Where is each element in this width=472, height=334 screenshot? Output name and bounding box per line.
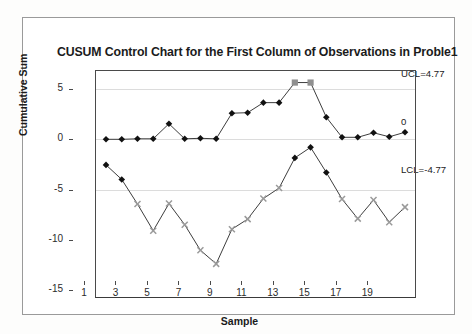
chart-title: CUSUM Control Chart for the First Column… bbox=[57, 45, 467, 59]
data-point-lower-12 bbox=[276, 185, 282, 191]
data-point-upper-14 bbox=[307, 79, 313, 85]
series-layer bbox=[95, 70, 416, 298]
data-point-lower-19 bbox=[386, 219, 392, 225]
y-tick-label: 5 bbox=[57, 82, 63, 93]
data-point-upper-19 bbox=[386, 133, 393, 140]
data-point-lower-8 bbox=[213, 261, 219, 267]
data-point-lower-10 bbox=[245, 216, 251, 222]
y-tick-mark bbox=[69, 89, 73, 90]
y-tick-label: 0 bbox=[57, 132, 63, 143]
screenshot-root: CUSUM Control Chart for the First Column… bbox=[0, 0, 472, 334]
data-point-lower-16 bbox=[339, 196, 345, 202]
series-line-lower bbox=[106, 147, 405, 264]
data-point-upper-1 bbox=[103, 136, 110, 143]
data-point-upper-13 bbox=[292, 79, 298, 85]
data-point-lower-17 bbox=[355, 216, 361, 222]
data-point-lower-7 bbox=[197, 247, 203, 253]
data-point-upper-9 bbox=[229, 110, 236, 117]
data-point-upper-8 bbox=[213, 136, 220, 143]
x-axis-label: Sample bbox=[23, 315, 456, 327]
y-tick-mark bbox=[69, 240, 73, 241]
data-point-lower-14 bbox=[307, 144, 314, 151]
data-point-upper-18 bbox=[370, 129, 377, 136]
y-tick-label: -10 bbox=[49, 233, 63, 244]
data-point-lower-5 bbox=[166, 201, 172, 207]
chart-card: CUSUM Control Chart for the First Column… bbox=[22, 17, 455, 315]
y-tick-mark bbox=[69, 139, 73, 140]
series-line-upper bbox=[106, 83, 405, 140]
data-point-upper-17 bbox=[354, 134, 361, 141]
data-point-lower-20 bbox=[402, 204, 408, 210]
plot-area bbox=[95, 70, 416, 298]
y-tick-label: -5 bbox=[54, 183, 63, 194]
data-point-lower-11 bbox=[260, 196, 266, 202]
x-tick-label: 1 bbox=[70, 287, 98, 298]
data-point-lower-13 bbox=[292, 155, 299, 162]
data-point-upper-7 bbox=[197, 135, 204, 142]
data-point-lower-4 bbox=[150, 228, 156, 234]
y-tick-mark bbox=[69, 190, 73, 191]
data-point-upper-2 bbox=[118, 136, 125, 143]
y-tick-label: -15 bbox=[49, 283, 63, 294]
data-point-upper-11 bbox=[260, 99, 267, 106]
data-point-lower-18 bbox=[371, 197, 377, 203]
data-point-lower-9 bbox=[229, 226, 235, 232]
data-point-lower-15 bbox=[323, 169, 330, 176]
x-tick-mark bbox=[84, 281, 85, 285]
y-axis-label: Cumulative Sum bbox=[17, 54, 29, 136]
data-point-upper-20 bbox=[402, 129, 409, 136]
data-point-upper-3 bbox=[134, 136, 141, 143]
data-point-upper-10 bbox=[244, 109, 251, 116]
data-point-lower-6 bbox=[182, 222, 188, 228]
data-point-lower-3 bbox=[134, 201, 140, 207]
